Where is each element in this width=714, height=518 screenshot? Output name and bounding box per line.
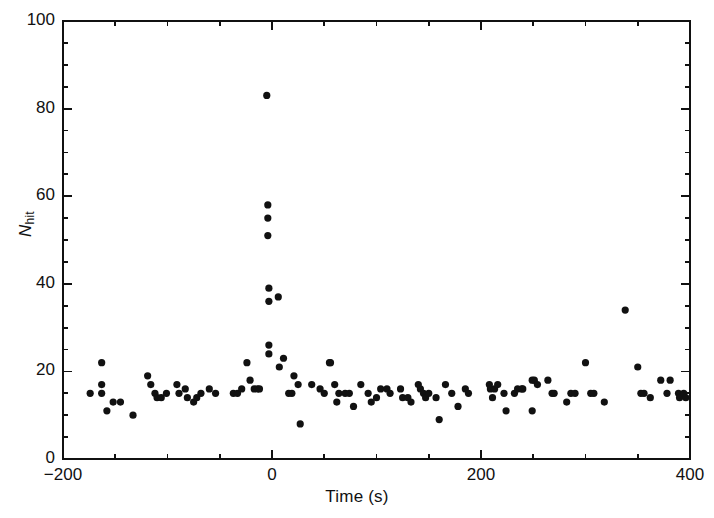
- data-point: [98, 359, 105, 366]
- data-point: [357, 381, 364, 388]
- data-point: [147, 381, 154, 388]
- data-point: [436, 416, 443, 423]
- data-point: [442, 381, 449, 388]
- y-axis-title: Nhit: [16, 202, 36, 246]
- data-point: [276, 363, 283, 370]
- data-point: [640, 390, 647, 397]
- data-point: [103, 407, 110, 414]
- data-point: [601, 398, 608, 405]
- x-tick-label: 0: [212, 465, 332, 485]
- data-point: [264, 215, 271, 222]
- data-point: [265, 298, 272, 305]
- data-point: [657, 377, 664, 384]
- data-point: [265, 342, 272, 349]
- x-tick-label: −200: [3, 465, 123, 485]
- data-point: [350, 403, 357, 410]
- data-point: [98, 381, 105, 388]
- x-tick-label: 200: [421, 465, 541, 485]
- data-point: [571, 390, 578, 397]
- data-point: [682, 394, 689, 401]
- data-point: [256, 385, 263, 392]
- data-point: [263, 92, 270, 99]
- data-point: [275, 293, 282, 300]
- y-tick-label: 20: [0, 360, 55, 380]
- data-point: [634, 363, 641, 370]
- data-point: [425, 390, 432, 397]
- data-point: [321, 390, 328, 397]
- data-point: [563, 398, 570, 405]
- data-point: [647, 394, 654, 401]
- data-point: [386, 390, 393, 397]
- data-point: [264, 232, 271, 239]
- data-point: [144, 372, 151, 379]
- data-point: [494, 381, 501, 388]
- data-point: [551, 390, 558, 397]
- data-point: [285, 390, 292, 397]
- data-points: [87, 92, 690, 428]
- data-point: [129, 412, 136, 419]
- data-point: [173, 381, 180, 388]
- data-point: [667, 377, 674, 384]
- data-point: [502, 407, 509, 414]
- data-point: [544, 377, 551, 384]
- data-point: [465, 390, 472, 397]
- data-point: [622, 306, 629, 313]
- plot-canvas: [0, 0, 714, 518]
- data-point: [377, 385, 384, 392]
- data-point: [308, 381, 315, 388]
- data-point: [663, 390, 670, 397]
- y-tick-label: 40: [0, 273, 55, 293]
- data-point: [365, 390, 372, 397]
- data-point: [246, 377, 253, 384]
- data-point: [184, 394, 191, 401]
- data-point: [295, 381, 302, 388]
- data-point: [407, 398, 414, 405]
- data-point: [529, 407, 536, 414]
- data-point: [582, 359, 589, 366]
- data-point: [331, 381, 338, 388]
- data-point: [590, 390, 597, 397]
- y-axis-title-subscript: hit: [23, 211, 37, 224]
- y-tick-label: 0: [0, 448, 55, 468]
- data-point: [265, 285, 272, 292]
- data-point: [197, 390, 204, 397]
- data-point: [87, 390, 94, 397]
- data-point: [489, 394, 496, 401]
- data-point: [110, 398, 117, 405]
- data-point: [297, 420, 304, 427]
- data-point: [182, 385, 189, 392]
- data-point: [280, 355, 287, 362]
- data-point: [346, 390, 353, 397]
- data-point: [432, 394, 439, 401]
- data-point: [448, 390, 455, 397]
- data-point: [212, 390, 219, 397]
- scatter-plot-figure: −2000200400020406080100 Time (s) Nhit: [0, 0, 714, 518]
- x-axis-title: Time (s): [0, 487, 714, 507]
- data-point: [243, 359, 250, 366]
- x-tick-label: 400: [630, 465, 714, 485]
- data-point: [397, 385, 404, 392]
- data-point: [333, 398, 340, 405]
- data-point: [206, 385, 213, 392]
- data-point: [335, 390, 342, 397]
- data-point: [163, 390, 170, 397]
- data-point: [265, 350, 272, 357]
- data-point: [98, 390, 105, 397]
- data-point: [500, 390, 507, 397]
- data-point: [518, 385, 525, 392]
- y-axis-title-variable: N: [16, 224, 35, 236]
- data-point: [117, 398, 124, 405]
- data-point: [264, 201, 271, 208]
- data-point: [290, 372, 297, 379]
- data-point: [327, 359, 334, 366]
- data-point: [534, 381, 541, 388]
- data-point: [175, 390, 182, 397]
- y-tick-label: 100: [0, 10, 55, 30]
- y-tick-label: 80: [0, 98, 55, 118]
- data-point: [454, 403, 461, 410]
- data-point: [238, 385, 245, 392]
- data-point: [373, 394, 380, 401]
